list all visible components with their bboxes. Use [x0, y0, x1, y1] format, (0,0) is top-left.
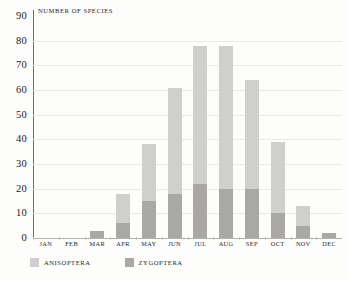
y-axis-tick-label: 70 — [0, 60, 27, 70]
stacked-bar[interactable] — [296, 206, 310, 238]
x-axis-tick-label-text: MAR — [90, 240, 106, 247]
x-axis-tick-label: OCT — [265, 240, 291, 252]
x-axis-tick-label: APR — [110, 240, 136, 252]
bar-segment-anisoptera[interactable] — [296, 206, 310, 226]
stacked-bar[interactable] — [193, 46, 207, 238]
legend-item-zygoptera[interactable]: ZYGOPTERA — [125, 258, 183, 267]
bar-slot-aug[interactable] — [213, 16, 239, 238]
bar-slot-apr[interactable] — [110, 16, 136, 238]
x-tick-mark — [162, 237, 163, 240]
y-axis-tick-label: 90 — [0, 11, 27, 21]
x-tick-mark — [33, 237, 34, 240]
chart-legend: ANISOPTERAZYGOPTERA — [30, 258, 217, 267]
bar-slot-jun[interactable] — [162, 16, 188, 238]
y-axis-tick-label: 20 — [0, 184, 27, 194]
y-axis-tick-label: 80 — [0, 36, 27, 46]
bar-slot-jul[interactable] — [188, 16, 214, 238]
stacked-bar[interactable] — [116, 194, 130, 238]
bar-slot-nov[interactable] — [291, 16, 317, 238]
legend-label: ANISOPTERA — [44, 259, 91, 266]
y-axis-tick-label: 50 — [0, 110, 27, 120]
legend-label: ZYGOPTERA — [139, 259, 183, 266]
x-tick-mark — [239, 237, 240, 240]
bar-slot-dec[interactable] — [316, 16, 342, 238]
x-axis-tick-label-text: JUL — [194, 240, 206, 247]
x-axis-tick-label-text: NOV — [296, 240, 311, 247]
bar-segment-zygoptera[interactable] — [168, 194, 182, 238]
y-axis-tick-label: 40 — [0, 134, 27, 144]
x-tick-mark — [213, 237, 214, 240]
stacked-bar[interactable] — [271, 142, 285, 238]
bar-segment-zygoptera[interactable] — [219, 189, 233, 238]
y-axis-tick-label: 0 — [0, 233, 27, 243]
x-axis-tick-label: MAR — [85, 240, 111, 252]
bar-segment-anisoptera[interactable] — [168, 88, 182, 194]
bar-segment-anisoptera[interactable] — [116, 194, 130, 224]
bar-segment-zygoptera[interactable] — [245, 189, 259, 238]
bar-segment-zygoptera[interactable] — [90, 231, 104, 238]
y-axis-tick-label: 10 — [0, 208, 27, 218]
bar-slot-oct[interactable] — [265, 16, 291, 238]
x-axis-tick-label: NOV — [291, 240, 317, 252]
bar-slot-mar[interactable] — [85, 16, 111, 238]
bar-slot-may[interactable] — [136, 16, 162, 238]
x-tick-mark — [136, 237, 137, 240]
chart-container: NUMBER OF SPECIES 9080706050403020100 JA… — [0, 0, 348, 281]
x-tick-mark — [59, 237, 60, 240]
x-tick-mark — [265, 237, 266, 240]
x-axis-tick-label: SEP — [239, 240, 265, 252]
bar-segment-anisoptera[interactable] — [219, 46, 233, 189]
bar-segment-zygoptera[interactable] — [116, 223, 130, 238]
bar-slot-jan[interactable] — [33, 16, 59, 238]
x-axis-tick-label: FEB — [59, 240, 85, 252]
x-axis-tick-label: DEC — [316, 240, 342, 252]
x-axis-tick-label-text: AUG — [219, 240, 234, 247]
x-axis-tick-label: JAN — [33, 240, 59, 252]
bar-segment-anisoptera[interactable] — [271, 142, 285, 214]
y-axis-tick-label: 60 — [0, 85, 27, 95]
legend-swatch-icon — [30, 258, 39, 267]
bar-segment-anisoptera[interactable] — [245, 80, 259, 189]
bar-segment-anisoptera[interactable] — [193, 46, 207, 184]
x-axis-tick-label-text: SEP — [246, 240, 258, 247]
x-axis-tick-label-text: APR — [116, 240, 130, 247]
x-axis-tick-labels: JANFEBMARAPRMAYJUNJULAUGSEPOCTNOVDEC — [33, 240, 342, 252]
bar-segment-zygoptera[interactable] — [296, 226, 310, 238]
bar-segment-anisoptera[interactable] — [142, 144, 156, 201]
x-axis-tick-label-text: FEB — [65, 240, 78, 247]
x-axis-tick-label: MAY — [136, 240, 162, 252]
stacked-bar[interactable] — [245, 80, 259, 238]
stacked-bar[interactable] — [168, 88, 182, 238]
x-tick-mark — [85, 237, 86, 240]
x-tick-mark — [316, 237, 317, 240]
x-axis-tick-label-text: OCT — [271, 240, 285, 247]
x-axis-tick-label: JUL — [188, 240, 214, 252]
bar-slot-feb[interactable] — [59, 16, 85, 238]
stacked-bar[interactable] — [219, 46, 233, 238]
bar-series-group — [33, 16, 342, 238]
bar-segment-zygoptera[interactable] — [271, 213, 285, 238]
x-axis-tick-label: JUN — [162, 240, 188, 252]
x-axis-tick-label-text: JAN — [39, 240, 52, 247]
y-axis-tick-label: 30 — [0, 159, 27, 169]
bar-segment-zygoptera[interactable] — [322, 233, 336, 238]
x-axis-tick-label: AUG — [213, 240, 239, 252]
legend-swatch-icon — [125, 258, 134, 267]
x-axis-tick-label-text: MAY — [141, 240, 156, 247]
bar-segment-zygoptera[interactable] — [193, 184, 207, 238]
x-tick-mark — [188, 237, 189, 240]
x-axis-tick-label-text: DEC — [322, 240, 336, 247]
bar-slot-sep[interactable] — [239, 16, 265, 238]
x-tick-mark — [291, 237, 292, 240]
stacked-bar[interactable] — [322, 233, 336, 238]
x-axis-tick-label-text: JUN — [168, 240, 181, 247]
stacked-bar[interactable] — [142, 144, 156, 238]
bar-segment-zygoptera[interactable] — [142, 201, 156, 238]
stacked-bar[interactable] — [90, 231, 104, 238]
x-tick-mark — [110, 237, 111, 240]
plot-area — [33, 16, 342, 238]
legend-item-anisoptera[interactable]: ANISOPTERA — [30, 258, 91, 267]
